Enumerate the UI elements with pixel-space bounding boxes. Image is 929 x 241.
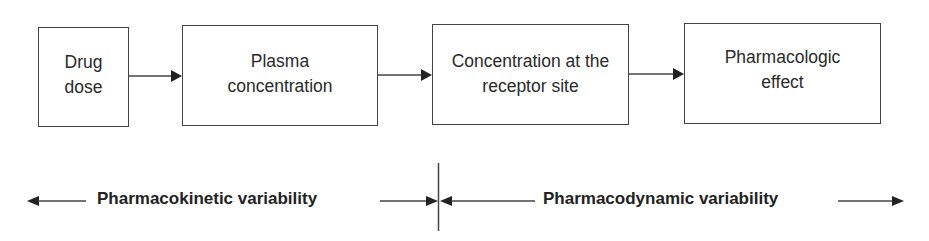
right-arrowhead-icon xyxy=(892,196,904,206)
pharmacokinetic-variability-label: Pharmacokinetic variability xyxy=(97,189,317,209)
arrow-dose-to-plasma xyxy=(129,70,182,82)
right-arrowhead-icon xyxy=(426,196,438,206)
pharmacodynamic-variability-label: Pharmacodynamic variability xyxy=(543,189,778,209)
arrow-plasma-to-receptor xyxy=(378,69,432,81)
left-arrowhead-icon xyxy=(440,196,452,206)
arrow-receptor-to-effect xyxy=(629,68,684,80)
left-arrowhead-icon xyxy=(27,196,39,206)
